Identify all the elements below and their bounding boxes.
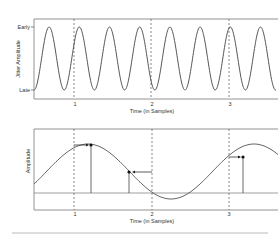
arrow-right-icon	[238, 156, 241, 159]
x-tick-2: 2	[150, 211, 153, 217]
x-tick-1: 1	[73, 101, 76, 107]
top-y-axis-label: Jitter Amplitude	[15, 40, 21, 78]
bottom-x-axis-label: Time (in Samples)	[130, 218, 175, 224]
arrow-left-icon	[132, 171, 135, 174]
bottom-chart: Amplitude 1 2 3 Time (in Samples)	[25, 129, 278, 224]
signal-waveform	[34, 144, 278, 199]
y-tick-late: Late	[19, 87, 30, 93]
x-tick-3: 3	[227, 211, 230, 217]
x-tick-3: 3	[228, 101, 231, 107]
y-tick-early: Early	[17, 24, 30, 30]
top-chart: Early Late Jitter Amplitude 1 2 3 Time (…	[15, 19, 278, 114]
x-tick-1: 1	[73, 211, 76, 217]
x-tick-2: 2	[150, 101, 153, 107]
sample-point-1	[89, 143, 92, 146]
sample-point-3	[241, 155, 244, 158]
top-x-axis-label: Time (in Samples)	[130, 108, 175, 114]
bottom-y-axis-label: Amplitude	[25, 149, 31, 173]
sample-point-2	[127, 170, 130, 173]
jitter-waveform	[34, 27, 276, 90]
jitter-diagram: Early Late Jitter Amplitude 1 2 3 Time (…	[0, 0, 278, 234]
